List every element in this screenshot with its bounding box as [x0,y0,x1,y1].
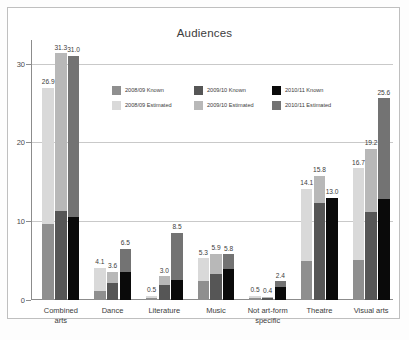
bar-value-label: 13.0 [326,189,339,196]
chart-title: Audiences [0,27,409,39]
bar-segment-estimated [301,189,313,261]
bar-segment-estimated [159,276,171,285]
bar-value-label: 0.4 [263,288,272,295]
bar-segment-known [223,269,235,300]
bar-value-label: 2.4 [276,273,285,280]
plot-area: 0102030 26.931.331.04.13.66.50.53.08.55.… [31,40,393,300]
chart-figure: Audiences 0102030 26.931.331.04.13.66.50… [0,0,409,340]
bar-value-label: 5.3 [199,250,208,257]
legend-label: 2008/09 Estimated [125,103,172,109]
y-tick-mark-0 [26,300,31,301]
y-tick-label: 30 [6,60,25,69]
y-tick-label: 10 [6,217,25,226]
bar-value-label: 14.1 [300,180,313,187]
bar[interactable] [210,254,222,300]
bar-value-label: 5.9 [211,245,220,252]
bar[interactable] [378,98,390,300]
bar-group: 4.13.66.5 [94,40,131,300]
bar-group: 0.50.42.4 [249,40,286,300]
category-label: Dance [87,306,139,316]
bar-segment-estimated [68,56,80,218]
legend-swatch [272,101,281,110]
bar[interactable] [107,272,119,300]
y-tick-mark-20 [26,142,31,143]
bar[interactable] [94,268,106,300]
legend-swatch [112,101,121,110]
legend-item[interactable]: 2009/10 Estimated [194,101,254,110]
bar[interactable] [223,254,235,300]
legend-label: 2010/11 Known [285,88,323,94]
bar-segment-estimated [55,53,67,211]
bar[interactable] [249,296,261,300]
bar-segment-known [159,285,171,300]
bar-segment-estimated [378,98,390,199]
bar-segment-estimated [171,233,183,279]
bar-segment-estimated [223,254,235,269]
bar[interactable] [159,276,171,300]
bar-segment-known [42,224,54,300]
bar[interactable] [42,88,54,300]
bar[interactable] [120,249,132,300]
legend-swatch [272,86,281,95]
bar[interactable] [262,297,274,300]
bar[interactable] [275,281,287,300]
bar[interactable] [146,296,158,300]
bar-value-label: 25.6 [377,90,390,97]
bar-value-label: 0.5 [250,287,259,294]
bar[interactable] [171,233,183,300]
y-tick-mark-30 [26,64,31,65]
bar-value-label: 3.0 [160,268,169,275]
y-tick-mark-10 [26,221,31,222]
bar-group: 16.719.225.6 [353,40,390,300]
category-label: Not art-form specific [242,306,294,326]
bar-segment-known [262,298,274,300]
bar[interactable] [301,189,313,300]
bar[interactable] [353,168,365,300]
bar-segment-known [94,291,106,300]
legend-item[interactable]: 2010/11 Known [272,86,323,95]
legend-item[interactable]: 2009/10 Known [194,86,246,95]
bar-segment-known [55,211,67,300]
bar-segment-known [301,261,313,300]
category-label: Combined arts [35,306,87,326]
legend-item[interactable]: 2010/11 Estimated [272,101,331,110]
bar-segment-estimated [42,88,54,224]
bar-group: 26.931.331.0 [42,40,79,300]
bar-segment-estimated [314,176,326,204]
bar[interactable] [55,53,67,300]
legend-label: 2010/11 Estimated [285,103,331,109]
bar[interactable] [198,258,210,300]
category-label: Literature [138,306,190,316]
bar[interactable] [365,149,377,300]
bar-segment-known [171,280,183,300]
legend-label: 2008/09 Known [125,88,164,94]
bar-group: 5.35.95.8 [198,40,235,300]
bar[interactable] [326,198,338,300]
bar-segment-known [326,198,338,300]
bar-value-label: 4.1 [95,259,104,266]
bar-segment-known [210,274,222,300]
legend-item[interactable]: 2008/09 Estimated [112,101,172,110]
bar-segment-known [107,283,119,300]
bar-value-label: 16.7 [352,160,365,167]
bar-segment-known [198,281,210,300]
bar-segment-estimated [198,258,210,281]
bar-segment-estimated [120,249,132,272]
bar[interactable] [314,176,326,300]
bar-segment-estimated [107,272,119,283]
y-tick-label: 0 [6,296,25,305]
legend-item[interactable]: 2008/09 Known [112,86,164,95]
bar[interactable] [68,56,80,300]
bar-segment-estimated [353,168,365,259]
bar-group: 14.115.813.0 [301,40,338,300]
bar-segment-estimated [210,254,222,274]
y-axis-line [31,40,32,300]
bar-value-label: 31.3 [54,45,67,52]
bar-segment-known [146,298,158,300]
bar-value-label: 6.5 [121,240,130,247]
bar-segment-known [68,217,80,300]
legend-label: 2009/10 Known [207,88,246,94]
bar-segment-known [120,272,132,300]
bar-group: 0.53.08.5 [146,40,183,300]
bar-value-label: 19.2 [365,140,378,147]
